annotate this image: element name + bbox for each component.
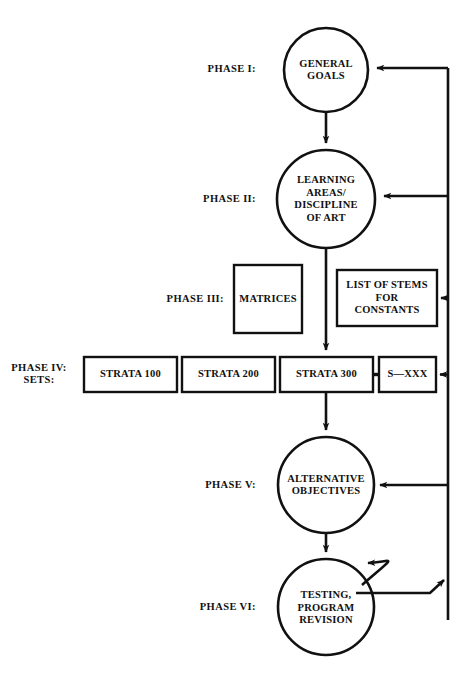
connector-strata300-to-s-xxx bbox=[373, 373, 379, 376]
phase-label-2: PHASE II: bbox=[152, 193, 256, 205]
phase-label-4: PHASE IV: SETS: bbox=[0, 362, 78, 386]
node-shape-matrices bbox=[234, 265, 302, 333]
node-shape-strata-100 bbox=[84, 357, 177, 392]
node-shape-s-xxx bbox=[379, 357, 436, 392]
node-shape-general-goals bbox=[284, 28, 368, 112]
node-shape-learning-areas bbox=[277, 150, 375, 248]
node-shape-testing-program-revision bbox=[278, 559, 374, 655]
node-shape-strata-300 bbox=[280, 357, 373, 392]
phase-label-1: PHASE I: bbox=[152, 63, 256, 75]
phase-label-5: PHASE V: bbox=[152, 479, 256, 491]
phase-label-6: PHASE VI: bbox=[152, 601, 256, 613]
node-shape-list-of-stems bbox=[337, 270, 437, 326]
node-shape-strata-200 bbox=[182, 357, 275, 392]
flowchart-diagram: PHASE I: PHASE II: PHASE III: PHASE IV: … bbox=[0, 0, 462, 679]
node-shape-alternative-objectives bbox=[278, 437, 374, 533]
self-loop-testing-program-revision bbox=[362, 561, 388, 585]
phase-label-3: PHASE III: bbox=[120, 293, 224, 305]
flowchart-canvas bbox=[0, 0, 462, 679]
